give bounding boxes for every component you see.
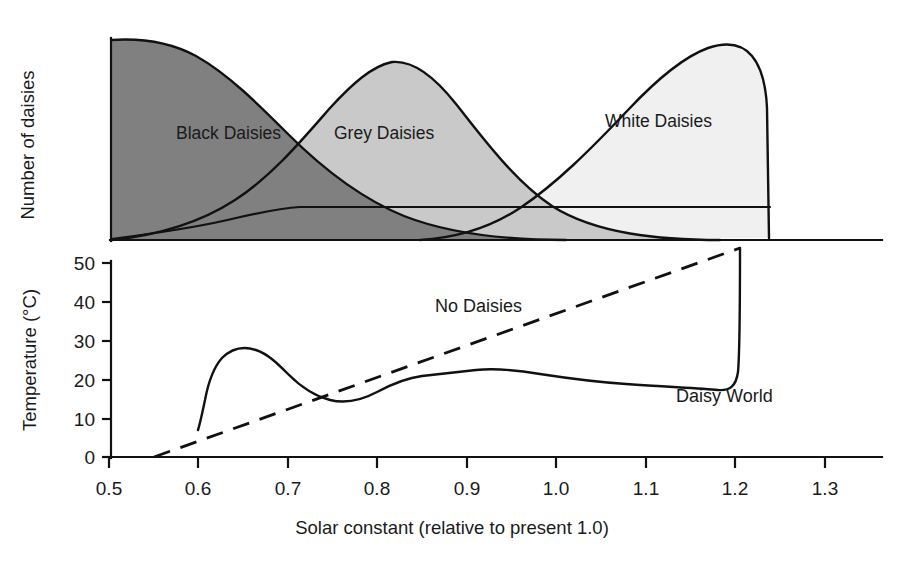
x-tick-label-1: 0.6 — [185, 478, 211, 499]
top-panel-y-axis-title: Number of daisies — [17, 70, 38, 219]
white-daisies-label: White Daisies — [605, 111, 712, 131]
x-tick-label-0: 0.5 — [96, 478, 122, 499]
daisyworld-chart-svg: Number of daisies Black Daisies Grey Dai… — [0, 0, 920, 566]
y-tick-label-0: 0 — [84, 447, 95, 468]
daisy-world-label: Daisy World — [676, 386, 773, 406]
x-tick-label-3: 0.8 — [364, 478, 390, 499]
x-tick-label-6: 1.1 — [633, 478, 659, 499]
x-tick-label-5: 1.0 — [543, 478, 569, 499]
y-tick-label-20: 20 — [74, 370, 95, 391]
x-tick-label-8: 1.3 — [812, 478, 838, 499]
daisyworld-figure: Number of daisies Black Daisies Grey Dai… — [0, 0, 920, 566]
y-tick-label-10: 10 — [74, 409, 95, 430]
black-daisies-label: Black Daisies — [176, 123, 281, 143]
grey-daisies-label: Grey Daisies — [334, 123, 434, 143]
y-tick-label-30: 30 — [74, 331, 95, 352]
bottom-panel-y-axis-title: Temperature (°C) — [19, 289, 40, 431]
bottom-panel-x-axis-title: Solar constant (relative to present 1.0) — [295, 517, 609, 538]
x-tick-label-4: 0.9 — [454, 478, 480, 499]
x-tick-label-7: 1.2 — [722, 478, 748, 499]
no-daisies-label: No Daisies — [435, 296, 522, 316]
y-tick-label-40: 40 — [74, 292, 95, 313]
y-tick-label-50: 50 — [74, 253, 95, 274]
x-tick-label-2: 0.7 — [275, 478, 301, 499]
